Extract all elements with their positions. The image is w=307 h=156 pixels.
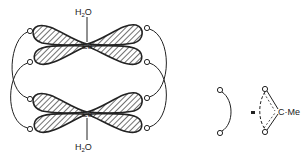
- legend-oxygen-bottom: [217, 130, 222, 135]
- right-arc-inner: [150, 63, 167, 127]
- legend-acetate-oxygen-top: [262, 86, 267, 91]
- legend-bond-bottom: [267, 114, 278, 130]
- top-lobe-upper-right: [87, 25, 142, 45]
- bottom-copper-label: Cu: [82, 110, 92, 119]
- legend-group-label: C·Me: [278, 107, 300, 117]
- oxygen-top-right-upper: [144, 25, 149, 30]
- oxygen-bottom-left-upper: [27, 96, 32, 101]
- bottom-lobe-upper-right: [87, 93, 142, 113]
- legend-equals-sign: [251, 111, 255, 114]
- copper-acetate-diagram: H2O Cu Cu H2O: [0, 0, 307, 156]
- legend-dashed-arc: [260, 92, 265, 129]
- top-copper-center: H2O Cu: [33, 7, 142, 64]
- top-lobe-lower-left: [34, 46, 87, 65]
- right-arc-outer: [150, 29, 167, 97]
- oxygen-top-right-lower: [144, 59, 149, 64]
- bottom-lobe-upper-left: [33, 93, 87, 113]
- bottom-lobe-lower-right: [87, 114, 142, 133]
- bottom-water-label: H2O: [75, 142, 92, 153]
- top-water-label: H2O: [75, 7, 92, 18]
- legend: C·Me: [217, 86, 300, 135]
- top-copper-label: Cu: [82, 42, 92, 51]
- legend-arc: [222, 92, 231, 131]
- oxygen-top-left-upper: [27, 28, 32, 33]
- left-arc-outer: [12, 32, 27, 98]
- top-lobe-lower-right: [87, 46, 142, 65]
- oxygen-bottom-left-lower: [27, 126, 32, 131]
- bottom-copper-center: Cu H2O: [33, 93, 142, 153]
- legend-oxygen-top: [217, 87, 222, 92]
- legend-acetate-oxygen-bottom: [262, 129, 267, 134]
- bottom-lobe-lower-left: [34, 114, 87, 133]
- left-arc-inner: [11, 63, 28, 128]
- top-lobe-upper-left: [33, 25, 87, 45]
- oxygen-top-left-lower: [27, 59, 32, 64]
- oxygen-bottom-right-upper: [144, 95, 149, 100]
- oxygen-bottom-right-lower: [144, 125, 149, 130]
